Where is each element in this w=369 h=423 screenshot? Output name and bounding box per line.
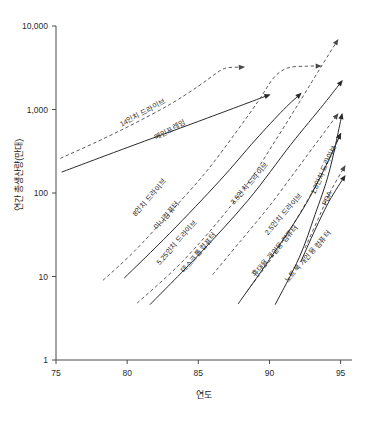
series-arrowhead-10 — [338, 113, 343, 120]
series-label-12: PDA — [320, 190, 334, 207]
series-label-2: 메인프레임 — [152, 118, 187, 142]
chart-figure: 10,0001,0001001017580859095 14인치 드라이브메인프… — [0, 0, 369, 423]
y-tick-label: 1 — [43, 355, 48, 365]
y-tick-label: 10 — [39, 272, 49, 282]
series-arrowhead-7 — [333, 113, 339, 120]
axes-layer: 10,0001,0001001017580859095 — [22, 21, 352, 378]
disruptive-innovation-line-chart: 10,0001,0001001017580859095 14인치 드라이브메인프… — [0, 0, 369, 423]
series-arrowhead-12 — [340, 175, 345, 182]
x-tick-label: 90 — [265, 368, 275, 378]
x-tick-label: 85 — [194, 368, 204, 378]
series-arrowhead-3 — [316, 63, 322, 68]
x-tick-label: 95 — [336, 368, 346, 378]
x-tick-label: 75 — [51, 368, 61, 378]
series-line-5 — [137, 40, 338, 303]
series-arrowhead-1 — [239, 65, 245, 70]
series-line-3 — [103, 66, 321, 280]
series-label-1: 14인치 드라이브 — [118, 97, 167, 129]
y-tick-label: 10,000 — [22, 21, 48, 31]
series-arrowhead-2 — [264, 94, 271, 99]
series-arrowhead-11 — [340, 165, 345, 172]
y-axis-title: 연간 총생산량(만대) — [13, 139, 24, 212]
y-tick-label: 1,000 — [27, 105, 49, 115]
x-axis-title: 연도 — [196, 390, 212, 400]
series-arrowhead-6 — [337, 80, 343, 86]
x-tick-label: 80 — [122, 368, 132, 378]
series-label-11: 1.8인치 드라이브 — [309, 144, 339, 196]
series-arrowhead-5 — [333, 39, 338, 46]
y-tick-label: 100 — [34, 188, 48, 198]
